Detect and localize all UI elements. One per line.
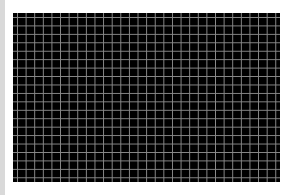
page <box>0 0 287 195</box>
left-scrollbar[interactable] <box>0 0 5 195</box>
grid-canvas <box>13 13 280 182</box>
